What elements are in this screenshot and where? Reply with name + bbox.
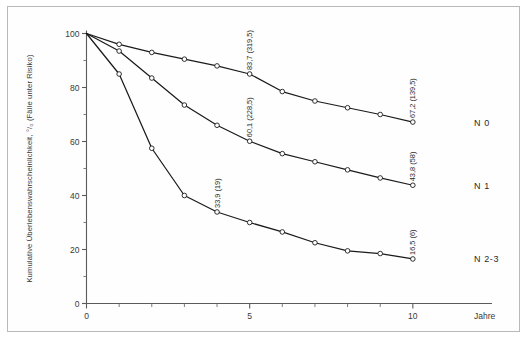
annotation-n-2-3-10: 16,5 (6): [408, 229, 417, 254]
marker-n-1-2: [149, 76, 154, 81]
marker-n-2-3-2: [149, 146, 154, 151]
marker-n-0-6: [280, 89, 285, 94]
series-label-n-2-3: N 2-3: [474, 254, 499, 264]
marker-n-1-3: [182, 103, 187, 108]
figure-container: 0204060801000510 83,7 (319,5)67,2 (139,5…: [0, 0, 527, 339]
series-label-n-0: N 0: [474, 118, 490, 128]
marker-n-0-10: [411, 120, 416, 125]
marker-n-2-3-10: [411, 257, 416, 262]
marker-n-1-9: [378, 176, 383, 181]
annotation-n-1-10: 43,8 (58): [408, 152, 417, 182]
axis-titles: JahreKumulative Überlebenswahrscheinlich…: [25, 54, 496, 320]
marker-n-2-3-5: [247, 220, 252, 225]
marker-n-2-3-4: [215, 210, 220, 215]
marker-n-1-8: [345, 168, 350, 173]
y-tick-label-80: 80: [70, 83, 80, 93]
point-annotations: 83,7 (319,5)67,2 (139,5)60,1 (228,5)43,8…: [213, 30, 418, 255]
marker-n-0-1: [117, 42, 122, 47]
x-axis-title: Jahre: [474, 311, 496, 321]
marker-n-0-8: [345, 105, 350, 110]
marker-n-1-6: [280, 151, 285, 156]
y-tick-label-60: 60: [70, 137, 80, 147]
marker-n-0-2: [149, 50, 154, 55]
annotation-n-2-3-4: 33,9 (19): [213, 178, 222, 208]
marker-n-2-3-1: [117, 72, 122, 77]
marker-n-2-3-3: [182, 193, 187, 198]
data-point-markers: [117, 42, 415, 261]
axes-group: [87, 31, 493, 304]
y-tick-label-20: 20: [70, 245, 80, 255]
marker-n-1-1: [117, 49, 122, 54]
x-tick-label-5: 5: [247, 311, 252, 321]
marker-n-0-9: [378, 112, 383, 117]
marker-n-2-3-8: [345, 249, 350, 254]
marker-n-2-3-6: [280, 230, 285, 235]
marker-n-0-5: [247, 72, 252, 77]
marker-n-2-3-7: [313, 240, 318, 245]
y-axis-title: Kumulative Überlebenswahrscheinlichkeit,…: [25, 54, 34, 283]
marker-n-0-7: [313, 99, 318, 104]
annotation-n-0-5: 83,7 (319,5): [245, 30, 254, 70]
series-legend-labels: N 0N 1N 2-3: [474, 118, 499, 265]
marker-n-1-10: [411, 183, 416, 188]
survival-curve-chart: 0204060801000510 83,7 (319,5)67,2 (139,5…: [0, 0, 527, 339]
x-tick-label-0: 0: [84, 311, 89, 321]
y-tick-label-40: 40: [70, 191, 80, 201]
marker-n-1-5: [247, 139, 252, 144]
series-label-n-1: N 1: [474, 181, 490, 191]
x-tick-label-10: 10: [408, 311, 418, 321]
marker-n-1-7: [313, 159, 318, 164]
y-tick-label-100: 100: [65, 29, 79, 39]
annotation-n-0-10: 67,2 (139,5): [408, 78, 417, 118]
y-tick-label-0: 0: [75, 299, 80, 309]
annotation-n-1-5: 60,1 (228,5): [245, 97, 254, 137]
marker-n-2-3-9: [378, 251, 383, 256]
marker-n-0-4: [215, 64, 220, 69]
marker-n-1-4: [215, 123, 220, 128]
marker-n-0-3: [182, 57, 187, 62]
